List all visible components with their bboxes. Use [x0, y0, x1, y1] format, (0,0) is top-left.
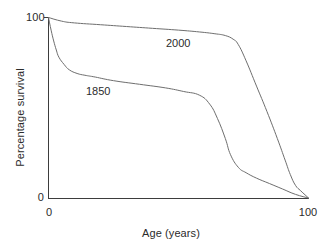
- series-annotation-2000: 2000: [166, 38, 190, 49]
- y-axis-tick-label-0: 0: [26, 192, 44, 203]
- x-axis-tick-label-100: 100: [293, 207, 323, 218]
- x-axis-title: Age (years): [119, 228, 223, 239]
- series-annotation-1850: 1850: [86, 86, 110, 97]
- y-axis-tick-label-100: 100: [26, 12, 44, 23]
- y-axis-title: Percentage survival: [15, 59, 26, 177]
- x-axis-tick-label-0: 0: [42, 207, 56, 218]
- survival-chart-figure: 100 0 0 100 Age (years) Percentage survi…: [0, 0, 327, 248]
